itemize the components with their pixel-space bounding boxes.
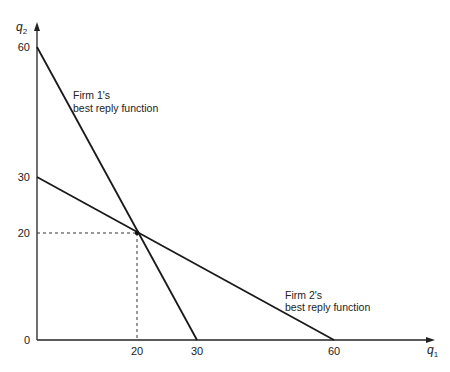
firm2-annotation-line2: best reply function [285, 301, 370, 313]
firm2-annotation-line1: Firm 2's [285, 289, 322, 301]
x-tick-20: 20 [131, 345, 143, 357]
x-tick-30: 30 [191, 345, 203, 357]
x-axis-label: q1 [427, 343, 439, 359]
x-tick-60: 60 [328, 345, 340, 357]
y-tick-60: 60 [18, 41, 30, 53]
y-axis-label: q2 [16, 20, 28, 36]
firm1-annotation-line1: Firm 1's [73, 89, 110, 101]
y-tick-20: 20 [18, 227, 30, 239]
firm2-best-reply-line [37, 177, 334, 340]
y-tick-30: 30 [18, 171, 30, 183]
best-reply-chart: q2 60 30 20 0 20 30 60 q1 Firm 1's best … [0, 0, 450, 372]
firm1-annotation-line2: best reply function [73, 102, 158, 114]
equilibrium-point [135, 231, 139, 235]
y-axis-arrow-icon [34, 22, 40, 31]
y-tick-0: 0 [24, 334, 30, 346]
firm1-best-reply-line [37, 47, 197, 340]
